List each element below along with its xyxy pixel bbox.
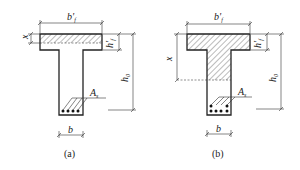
flange-width-label: b'f [214,11,224,23]
compression-zone-hatch [187,34,250,80]
panel-b-caption: (b) [212,148,224,160]
panel-b: As b'f x h'f [163,11,284,160]
rebar-group [62,110,80,113]
panel-a-caption: (a) [64,148,75,160]
t-beam-figure: As b'f x h'f [0,0,300,170]
compression-depth-dimension [174,32,187,82]
flange-width-dimension [185,21,252,33]
web-width-label: b [68,124,73,135]
flange-thickness-label: h'f [104,38,116,48]
effective-depth-label: h0 [267,74,279,82]
flange-thickness-label: h'f [252,38,264,48]
compression-depth-label: x [163,56,174,62]
steel-area-label: As [237,86,247,98]
t-section-outline [40,34,102,115]
compression-depth-label: x [19,34,30,40]
panel-a: As b'f x h'f [19,11,136,160]
steel-area-label: As [89,87,99,99]
flange-width-label: b'f [67,11,77,23]
rebar-group [210,105,229,113]
web-width-label: b [216,123,221,134]
steel-leader-lines [63,98,106,110]
compression-zone-hatch [40,34,102,43]
effective-depth-label: h0 [119,74,131,82]
